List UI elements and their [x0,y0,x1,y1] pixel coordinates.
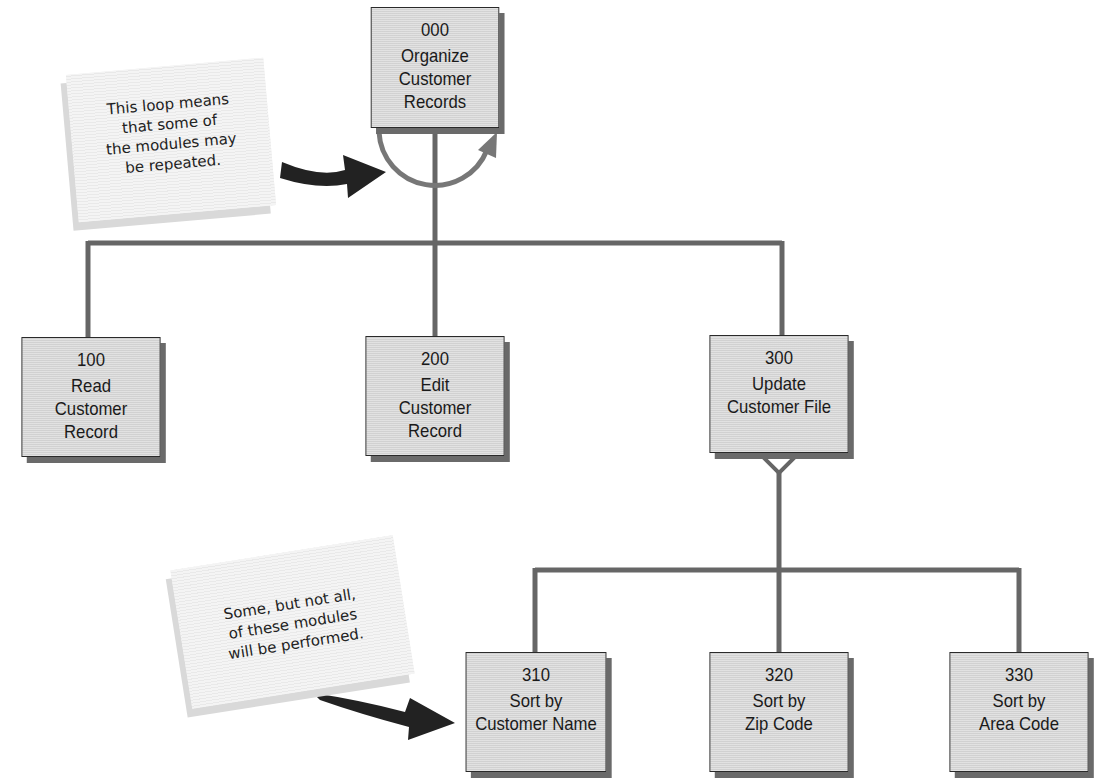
module-200-number: 200 [366,347,503,370]
arrow-to-310-icon [313,693,455,740]
module-000-number: 000 [372,18,499,41]
module-100-number: 100 [22,348,159,371]
module-200[interactable]: 200 Edit Customer Record [365,336,504,456]
module-310-label: Sort by Customer Name [466,689,605,735]
module-300-number: 300 [710,346,847,369]
module-300-label: Update Customer File [710,372,847,418]
module-320[interactable]: 320 Sort by Zip Code [709,652,848,772]
note-loop: This loop means that some of the modules… [66,58,276,223]
arrow-to-loop-icon [280,155,386,198]
module-330-number: 330 [950,663,1087,686]
module-310-number: 310 [466,663,605,686]
module-320-label: Sort by Zip Code [710,689,847,735]
module-330[interactable]: 330 Sort by Area Code [949,652,1088,772]
module-200-label: Edit Customer Record [366,373,503,442]
module-100[interactable]: 100 Read Customer Record [21,337,160,457]
note-optional-text: Some, but not all, of these modules will… [177,577,409,671]
module-000[interactable]: 000 Organize Customer Records [371,7,499,128]
module-100-label: Read Customer Record [22,374,159,443]
module-000-label: Organize Customer Records [372,44,499,113]
loop-arc-icon [379,132,497,185]
note-loop-text: This loop means that some of the modules… [68,86,272,183]
module-320-number: 320 [710,663,847,686]
module-310[interactable]: 310 Sort by Customer Name [466,652,607,772]
module-330-label: Sort by Area Code [950,689,1087,735]
module-300[interactable]: 300 Update Customer File [709,335,848,453]
